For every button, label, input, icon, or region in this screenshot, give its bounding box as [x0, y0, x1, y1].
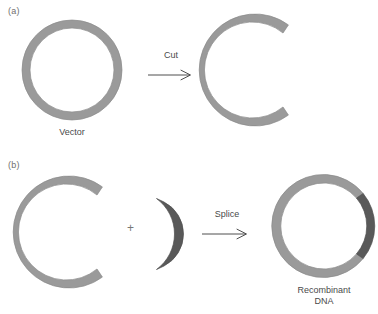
vector-plasmid-circle — [18, 16, 126, 124]
splice-operation-label: Splice — [198, 209, 256, 219]
dna-insert-fragment — [150, 193, 186, 275]
plus-combiner-symbol: + — [127, 222, 134, 234]
recombinant-vector-segment — [272, 175, 363, 278]
cut-vector-arc — [196, 13, 308, 127]
recombinant-insert-segment — [357, 194, 375, 259]
panel-label-b: (b) — [8, 160, 20, 170]
splice-arrow-icon — [199, 225, 255, 243]
recombinant-dna-caption: Recombinant DNA — [281, 285, 367, 307]
panel-label-a: (a) — [8, 6, 20, 16]
cut-vector-arc-panel-b — [10, 175, 122, 289]
vector-caption: Vector — [37, 127, 107, 138]
cut-operation-label: Cut — [143, 50, 199, 60]
recombinant-dna-circle — [274, 176, 374, 276]
cut-arrow-icon — [145, 66, 197, 84]
figure-canvas: (a) Vector Cut (b) + Splice Rec — [0, 0, 378, 314]
